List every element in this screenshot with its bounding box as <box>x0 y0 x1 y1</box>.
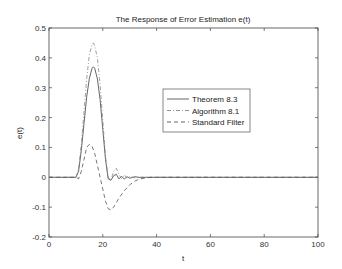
y-tick-label: -0.1 <box>32 203 46 212</box>
legend-label: Algorithm 8.1 <box>192 107 240 116</box>
chart-background <box>0 0 342 269</box>
legend-label: Standard Filter <box>192 118 245 127</box>
x-tick-label: 60 <box>206 240 215 249</box>
x-tick-label: 100 <box>311 240 325 249</box>
y-tick-label: 0 <box>42 173 47 182</box>
legend: Theorem 8.3Algorithm 8.1Standard Filter <box>163 89 250 132</box>
y-tick-label: 0.4 <box>35 54 47 63</box>
x-tick-label: 80 <box>260 240 269 249</box>
x-tick-label: 20 <box>98 240 107 249</box>
y-tick-label: -0.2 <box>32 233 46 242</box>
y-tick-label: 0.3 <box>35 84 47 93</box>
y-tick-label: 0.1 <box>35 143 47 152</box>
chart-title: The Response of Error Estimation e(t) <box>116 15 251 24</box>
y-axis-label: e(t) <box>15 127 24 139</box>
x-tick-label: 40 <box>152 240 161 249</box>
y-tick-label: 0.5 <box>35 24 47 33</box>
y-tick-label: 0.2 <box>35 114 47 123</box>
x-tick-label: 0 <box>47 240 52 249</box>
legend-label: Theorem 8.3 <box>192 95 238 104</box>
line-chart: The Response of Error Estimation e(t) 02… <box>0 0 342 269</box>
